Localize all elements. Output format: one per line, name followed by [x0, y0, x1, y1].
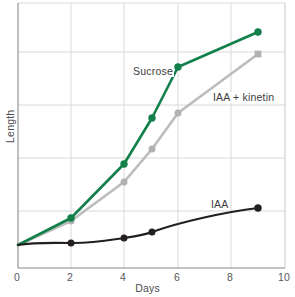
- series-iaa-kinetin: [18, 51, 261, 245]
- plot-area: [0, 0, 295, 297]
- x-tick-label-6: 6: [174, 272, 180, 283]
- x-tick-label-0: 0: [14, 272, 20, 283]
- data-point: [175, 110, 182, 117]
- data-point: [149, 229, 156, 236]
- data-point: [148, 114, 155, 121]
- vertical-gridlines: [71, 3, 285, 268]
- data-point: [254, 204, 261, 211]
- series-label-iaa-kinetin: IAA + kinetin: [212, 92, 275, 103]
- x-tick-label-2: 2: [67, 272, 73, 283]
- data-point: [67, 214, 74, 221]
- horizontal-gridlines: [18, 3, 285, 211]
- data-point: [121, 179, 128, 186]
- x-tick-label-4: 4: [120, 272, 126, 283]
- data-point: [149, 146, 156, 153]
- data-point: [121, 235, 128, 242]
- x-axis-title: Days: [0, 283, 295, 294]
- data-point: [120, 160, 127, 167]
- data-point: [174, 63, 181, 70]
- data-point: [254, 28, 261, 35]
- x-tick-label-8: 8: [227, 272, 233, 283]
- series-label-iaa: IAA: [210, 199, 230, 210]
- line-chart: 0 2 4 6 8 10 Days Length Sucrose IAA + k…: [0, 0, 295, 297]
- series-line-iaa-kinetin: [18, 54, 258, 245]
- y-axis-title: Length: [5, 97, 16, 155]
- data-point: [255, 51, 262, 58]
- data-point: [68, 240, 75, 247]
- x-tick-label-10: 10: [278, 272, 290, 283]
- series-label-sucrose: Sucrose: [132, 66, 174, 77]
